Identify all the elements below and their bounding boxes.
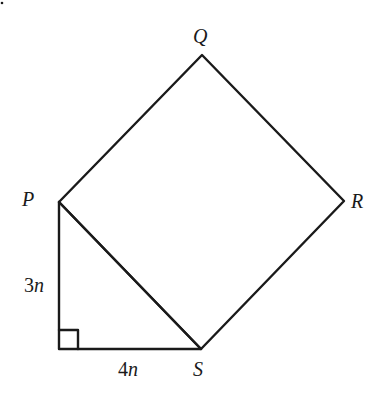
label-side-4n-variable: n	[128, 358, 138, 380]
label-side-3n-number: 3	[24, 274, 34, 296]
label-q: Q	[193, 25, 208, 47]
label-side-3n-variable: n	[34, 274, 44, 296]
label-side-3n: 3n	[24, 274, 44, 296]
label-s: S	[193, 358, 203, 380]
label-p: P	[21, 188, 34, 210]
right-angle-marker	[59, 330, 78, 349]
label-side-4n: 4n	[118, 358, 138, 380]
stray-dot	[1, 2, 4, 5]
square-pqrs	[59, 55, 344, 349]
label-r: R	[350, 190, 363, 212]
label-side-4n-number: 4	[118, 358, 128, 380]
diagonal-ps	[59, 202, 201, 349]
geometry-diagram: Q P R S 3n 4n	[0, 0, 389, 399]
